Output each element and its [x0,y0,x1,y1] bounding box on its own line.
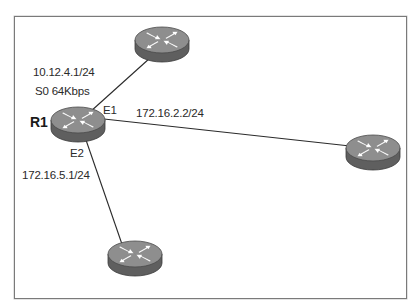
e2-interface-label: E2 [70,148,84,160]
e1-remote-ip-label: 172.16.2.2/24 [136,108,204,120]
network-diagram [0,0,419,307]
router-icon[interactable] [51,107,105,142]
link-r1-top [90,58,150,112]
link-r1-bottom [86,140,124,250]
router-icon[interactable] [135,27,189,62]
serial-ip-label: 10.12.4.1/24 [33,67,95,79]
router-r1-name: R1 [30,115,48,129]
link-r1-right [104,119,350,146]
serial-interface-label: S0 64Kbps [35,86,89,98]
router-icon[interactable] [108,241,162,276]
e2-ip-label: 172.16.5.1/24 [22,170,90,182]
e1-interface-label: E1 [103,105,117,117]
router-icon[interactable] [346,135,400,170]
